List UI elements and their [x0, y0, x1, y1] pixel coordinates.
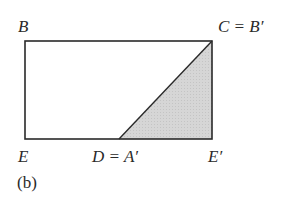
label-c: C = B′: [218, 17, 264, 36]
label-d: D = A′: [91, 147, 138, 166]
label-e-prime: E′: [207, 147, 222, 166]
geometry-diagram: B C = B′ E D = A′ E′ (b): [0, 0, 288, 199]
label-e: E: [17, 147, 29, 166]
figure-caption: (b): [17, 173, 37, 192]
label-b: B: [18, 17, 29, 36]
